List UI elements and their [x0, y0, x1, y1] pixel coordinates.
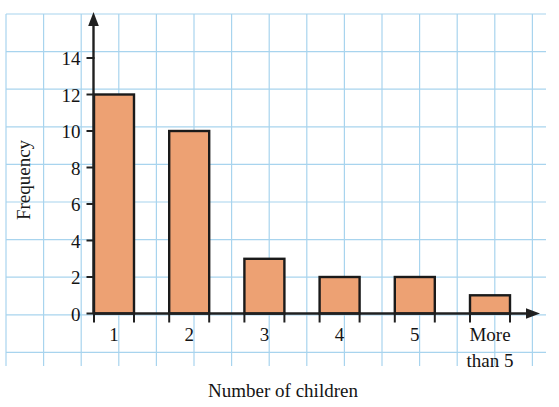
- bar-1: [94, 95, 134, 314]
- x-category-label: More: [469, 324, 510, 345]
- bar-5: [395, 277, 435, 314]
- x-category-label: 5: [410, 324, 420, 345]
- y-tick-label-4: 4: [71, 231, 81, 252]
- x-category-label: 4: [335, 324, 345, 345]
- graph-paper-grid: [0, 0, 559, 407]
- x-category-label: 2: [184, 324, 194, 345]
- x-category-label-line2: than 5: [467, 350, 514, 371]
- y-tick-label-8: 8: [71, 158, 81, 179]
- y-tick-label-2: 2: [71, 267, 81, 288]
- bar-more: [470, 295, 510, 313]
- y-axis-title: Frequency: [13, 139, 34, 220]
- frequency-bar-chart: 14121086420 12345Morethan 5 Frequency Nu…: [0, 0, 559, 407]
- y-tick-label-14: 14: [62, 48, 82, 69]
- x-category-label: 1: [109, 324, 119, 345]
- y-tick-label-12: 12: [62, 85, 81, 106]
- y-tick-label-6: 6: [71, 194, 81, 215]
- bar-2: [169, 131, 209, 314]
- x-axis-title: Number of children: [208, 380, 358, 401]
- y-tick-label-10: 10: [62, 121, 81, 142]
- bar-3: [244, 259, 284, 314]
- chart-background: [0, 0, 559, 407]
- x-category-label: 3: [260, 324, 270, 345]
- chart-svg: 14121086420 12345Morethan 5 Frequency Nu…: [0, 0, 559, 407]
- y-tick-label-0: 0: [71, 304, 81, 325]
- bar-4: [320, 277, 360, 314]
